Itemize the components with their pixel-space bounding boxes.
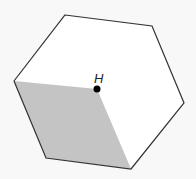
- point-h-dot: [94, 86, 101, 93]
- hexagon-figure: [0, 0, 196, 179]
- point-h-label: H: [94, 72, 103, 85]
- diagram-canvas: H: [0, 0, 196, 179]
